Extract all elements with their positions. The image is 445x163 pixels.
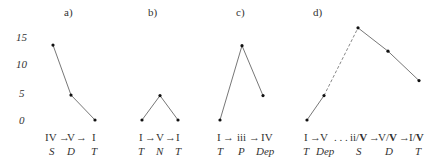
y-tick-label: 10 bbox=[16, 58, 28, 70]
data-point bbox=[417, 79, 420, 82]
function-label: S bbox=[49, 145, 55, 157]
series-segment bbox=[220, 46, 242, 120]
arrow: → bbox=[145, 131, 156, 143]
y-axis: 15 10 5 0 bbox=[16, 31, 28, 126]
arrow: → bbox=[249, 131, 260, 143]
chord-label: V bbox=[320, 131, 328, 143]
data-point bbox=[140, 118, 143, 121]
data-point bbox=[261, 94, 264, 97]
chord-label: I bbox=[139, 131, 143, 143]
panel-d-labels: I → V . . . ii/V → V/V → I/V bbox=[304, 131, 424, 143]
series-segment bbox=[388, 51, 419, 80]
panel-title-d: d) bbox=[313, 6, 323, 19]
chord-label: I bbox=[304, 131, 308, 143]
chord-label: V bbox=[67, 131, 75, 143]
chord-label: I bbox=[176, 131, 180, 143]
chord-label: ii/V bbox=[350, 131, 367, 143]
arrow: → bbox=[76, 131, 87, 143]
function-label: T bbox=[415, 145, 422, 157]
series-segment bbox=[142, 96, 160, 120]
tension-curves-chart: 15 10 5 0 a) b) c) d) IV → V → I I → V →… bbox=[0, 0, 445, 163]
function-label: T bbox=[91, 145, 98, 157]
series-segment bbox=[160, 96, 178, 120]
chord-label: IV bbox=[45, 131, 57, 143]
chord-label: I bbox=[92, 131, 96, 143]
series-segment bbox=[242, 46, 263, 96]
series-segment bbox=[324, 28, 358, 96]
series-segment bbox=[307, 96, 324, 120]
data-point bbox=[356, 26, 359, 29]
data-point bbox=[305, 118, 308, 121]
function-label: S bbox=[356, 145, 362, 157]
y-tick-label: 5 bbox=[19, 87, 25, 99]
function-label: T bbox=[303, 145, 310, 157]
chord-label: I bbox=[217, 131, 221, 143]
panel-a-labels: IV → V → I bbox=[45, 131, 96, 143]
data-point bbox=[386, 50, 389, 53]
data-point bbox=[51, 43, 54, 46]
data-point bbox=[93, 118, 96, 121]
panel-c-labels: I → iii → IV bbox=[217, 131, 273, 143]
chord-label: iii bbox=[237, 131, 246, 143]
function-label: N bbox=[155, 145, 164, 157]
panel-title-b: b) bbox=[148, 6, 158, 19]
function-label: D bbox=[66, 145, 75, 157]
function-label: D bbox=[384, 145, 393, 157]
panel-title-a: a) bbox=[64, 6, 73, 19]
y-tick-label: 15 bbox=[16, 31, 28, 43]
data-point bbox=[240, 44, 243, 47]
chord-label: IV bbox=[261, 131, 273, 143]
chord-label: V/V bbox=[378, 131, 397, 143]
function-label: T bbox=[217, 145, 224, 157]
function-label: Dep bbox=[315, 145, 335, 157]
data-point bbox=[218, 118, 221, 121]
series-segment bbox=[53, 45, 71, 95]
data-point bbox=[176, 118, 179, 121]
series-segment bbox=[358, 28, 388, 51]
series-segment bbox=[71, 95, 95, 120]
data-point bbox=[158, 94, 161, 97]
y-tick-label: 0 bbox=[19, 114, 25, 126]
function-label: T bbox=[138, 145, 145, 157]
ellipsis: . . . bbox=[334, 131, 348, 143]
arrow: → bbox=[165, 131, 176, 143]
function-label: P bbox=[237, 145, 245, 157]
chord-label: V bbox=[156, 131, 164, 143]
data-point bbox=[322, 94, 325, 97]
panel-title-c: c) bbox=[236, 6, 245, 19]
panel-b-labels: I → V → I bbox=[139, 131, 180, 143]
function-label: Dep bbox=[255, 145, 275, 157]
function-label: T bbox=[175, 145, 182, 157]
data-point bbox=[69, 93, 72, 96]
arrow: → bbox=[223, 131, 234, 143]
chord-label: I/V bbox=[409, 131, 424, 143]
